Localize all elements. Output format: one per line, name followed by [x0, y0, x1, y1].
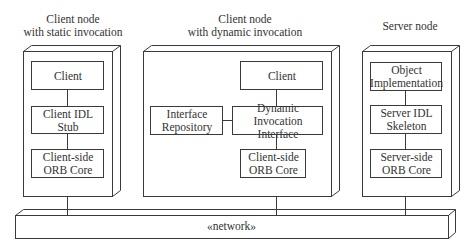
title-line: Client node	[170, 13, 320, 26]
component-dynamic-invocation-interface-label: Dynamic Invocation Interface	[233, 107, 323, 135]
title-line: with dynamic invocation	[170, 26, 320, 39]
label-text: Dynamic Invocation	[233, 102, 323, 128]
label-text: Skeleton	[386, 120, 426, 133]
component-server-idl-skeleton-label: Server IDL Skeleton	[371, 106, 442, 134]
title-line: Client node	[8, 13, 138, 26]
component-interface-repository-label: Interface Repository	[151, 107, 223, 135]
label-text: Server-side	[380, 151, 432, 164]
label-text: Client-side	[43, 151, 93, 164]
component-client-dynamic-label: Client	[241, 62, 323, 90]
label-text: Interface	[167, 108, 208, 121]
component-object-implementation-label: Object Implementation	[371, 63, 442, 91]
network-label: «network»	[15, 220, 448, 232]
component-client-orb-core-static-label: Client-side ORB Core	[32, 150, 104, 178]
title-line: with static invocation	[8, 26, 138, 39]
label-text: Client-side	[248, 151, 298, 164]
node-dynamic-client-title: Client node with dynamic invocation	[170, 13, 320, 39]
node-static-client-title: Client node with static invocation	[8, 13, 138, 39]
component-client-static-label: Client	[32, 62, 104, 90]
component-client-orb-core-dynamic-label: Client-side ORB Core	[241, 150, 306, 178]
label-text: ORB Core	[382, 164, 431, 177]
label-text: Object	[391, 64, 422, 77]
label-text: Client	[268, 70, 296, 83]
label-text: ORB Core	[249, 164, 298, 177]
component-server-orb-core-label: Server-side ORB Core	[371, 150, 442, 178]
label-text: Client IDL Stub	[32, 108, 104, 134]
node-server-title: Server node	[360, 20, 460, 33]
component-client-idl-stub-label: Client IDL Stub	[32, 107, 104, 134]
label-text: Repository	[162, 121, 212, 134]
label-text: Interface	[258, 128, 299, 141]
label-text: Implementation	[370, 77, 443, 90]
label-text: Client	[54, 70, 82, 83]
label-text: ORB Core	[44, 164, 93, 177]
label-text: Server IDL	[380, 107, 432, 120]
title-line: Server node	[360, 20, 460, 33]
